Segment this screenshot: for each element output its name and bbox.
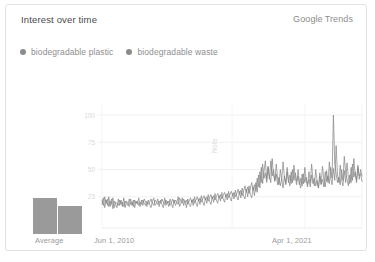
legend-dot-icon [20, 49, 26, 55]
y-axis-tick-label: 75 [88, 139, 96, 146]
chart-legend: biodegradable plastic biodegradable wast… [20, 47, 218, 57]
google-trends-logo: GoogleTrends [293, 14, 353, 24]
legend-label: biodegradable plastic [31, 47, 113, 57]
axis-tick-start: Jun 1, 2010 [94, 236, 134, 245]
screenshot-root: Interest over time GoogleTrends biodegra… [0, 0, 375, 262]
legend-label: biodegradable waste [137, 47, 217, 57]
average-bars [33, 198, 83, 234]
trends-wordmark: Trends [325, 14, 353, 24]
x-axis: Average Jun 1, 2010 Apr 1, 2021 [20, 236, 364, 250]
axis-tick-end: Apr 1, 2021 [272, 236, 312, 245]
interest-over-time-card: Interest over time GoogleTrends biodegra… [5, 4, 367, 251]
legend-item-biodegradable-plastic[interactable]: biodegradable plastic [20, 47, 113, 57]
note-annotation: Note [211, 138, 218, 153]
y-axis-tick-label: 50 [88, 166, 96, 173]
legend-dot-icon [126, 49, 132, 55]
average-bar-biodegradable-waste [58, 206, 82, 234]
google-wordmark: Google [293, 14, 323, 24]
page-title: Interest over time [21, 14, 97, 25]
y-axis-tick-label: 25 [88, 193, 96, 200]
y-axis-tick-label: 100 [84, 112, 95, 119]
axis-tick-average: Average [35, 236, 64, 245]
legend-item-biodegradable-waste[interactable]: biodegradable waste [126, 47, 217, 57]
average-bar-biodegradable-plastic [33, 198, 57, 234]
